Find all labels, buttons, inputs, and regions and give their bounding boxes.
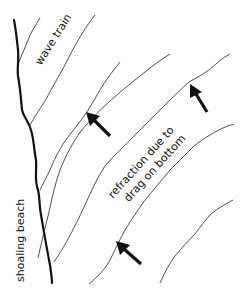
- arrow-icon: [86, 112, 110, 136]
- shoaling-beach-label: shoaling beach: [14, 199, 27, 282]
- arrow-icon: [190, 84, 207, 112]
- wave-crest-7: [160, 200, 233, 283]
- wave-refraction-diagram: wave train refraction due to drag on bot…: [0, 0, 246, 297]
- wave-crest-3: [40, 62, 120, 190]
- arrow-icon: [116, 241, 141, 264]
